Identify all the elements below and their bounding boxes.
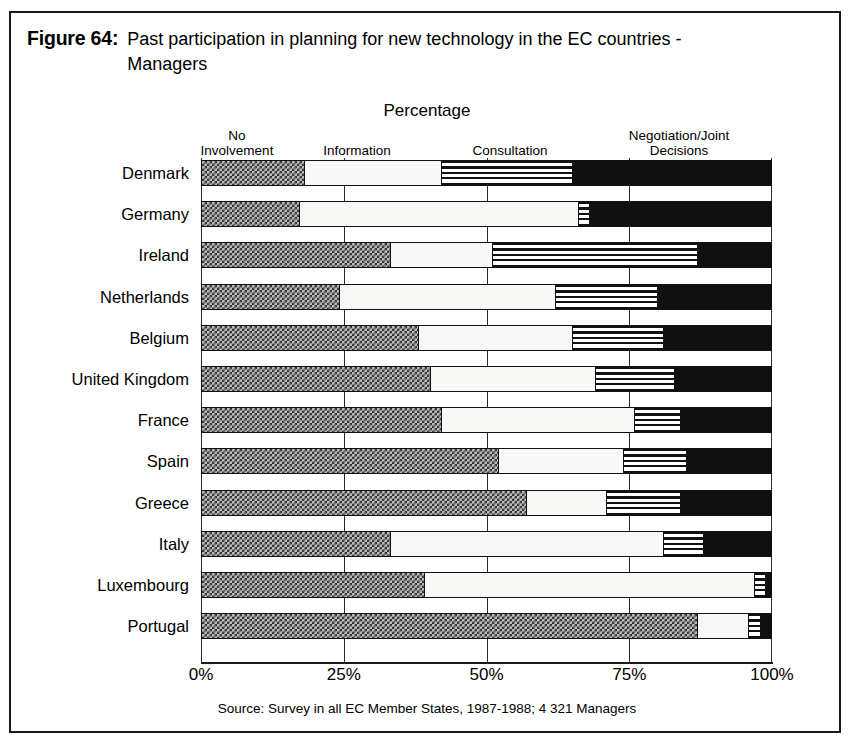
bar-segment-negotiation	[572, 161, 771, 185]
bar-segment-consultation	[441, 161, 572, 185]
y-axis-label-spain: Spain	[147, 452, 189, 471]
bar-row	[201, 201, 772, 227]
y-axis-label-italy: Italy	[159, 535, 189, 554]
x-axis-tick-labels: 0%25%50%75%100%	[11, 665, 843, 691]
bar-segment-no-involvement	[202, 573, 424, 597]
x-tick-0: 0%	[189, 665, 214, 685]
bar-segment-consultation	[606, 491, 680, 515]
source-note: Source: Survey in all EC Member States, …	[11, 701, 843, 716]
y-axis-label-denmark: Denmark	[122, 164, 189, 183]
x-tick-75: 75%	[612, 665, 646, 685]
bar-segment-no-involvement	[202, 326, 418, 350]
bar-segment-information	[498, 449, 623, 473]
bar-segment-no-involvement	[202, 285, 339, 309]
bar-segment-information	[390, 532, 663, 556]
bar-segment-consultation	[634, 408, 680, 432]
bar-segment-negotiation	[765, 573, 771, 597]
bar-row	[201, 572, 772, 598]
legend-label-line1: Information	[277, 143, 437, 158]
bar-segment-information	[418, 326, 572, 350]
bar-segment-negotiation	[703, 532, 771, 556]
y-axis-label-ireland: Ireland	[139, 246, 189, 265]
legend-label-line1: Consultation	[430, 143, 590, 158]
bar-segment-no-involvement	[202, 243, 390, 267]
bar-segment-negotiation	[697, 243, 771, 267]
x-tick-25: 25%	[327, 665, 361, 685]
bar-segment-negotiation	[680, 408, 771, 432]
bar-segment-information	[304, 161, 441, 185]
bar-segment-negotiation	[663, 326, 771, 350]
bar-row	[201, 160, 772, 186]
bar-row	[201, 448, 772, 474]
bar-segment-consultation	[555, 285, 657, 309]
bar-segment-negotiation	[760, 614, 771, 638]
bar-row	[201, 407, 772, 433]
bar-segment-consultation	[754, 573, 765, 597]
figure-number-label: Figure 64:	[27, 27, 127, 50]
bar-segment-no-involvement	[202, 202, 299, 226]
bar-segment-consultation	[663, 532, 703, 556]
x-tick-100: 100%	[750, 665, 793, 685]
y-axis-label-greece: Greece	[135, 494, 189, 513]
bar-segment-consultation	[595, 367, 675, 391]
bar-segment-no-involvement	[202, 408, 441, 432]
bar-row	[201, 490, 772, 516]
bar-row	[201, 242, 772, 268]
bar-segment-consultation	[748, 614, 759, 638]
bar-row	[201, 366, 772, 392]
x-tick-50: 50%	[469, 665, 503, 685]
bar-segment-no-involvement	[202, 491, 526, 515]
legend-item-information: Information	[277, 143, 437, 158]
y-axis-label-belgium: Belgium	[129, 329, 189, 348]
chart-title: Percentage	[11, 101, 843, 121]
bar-row	[201, 613, 772, 639]
y-axis-label-netherlands: Netherlands	[100, 288, 189, 307]
bar-segment-information	[430, 367, 595, 391]
bar-segment-information	[390, 243, 492, 267]
legend-label-line1: Negotiation/Joint	[589, 128, 769, 143]
bar-segment-information	[441, 408, 634, 432]
bar-segment-negotiation	[674, 367, 771, 391]
bar-segment-information	[424, 573, 754, 597]
bar-segment-information	[299, 202, 578, 226]
y-axis-label-luxembourg: Luxembourg	[97, 576, 189, 595]
bar-segment-negotiation	[680, 491, 771, 515]
x-axis-line	[201, 662, 773, 664]
y-axis-label-portugal: Portugal	[128, 617, 189, 636]
chart-legend: No Involvement Information Consultation …	[11, 126, 843, 162]
bar-segment-negotiation	[589, 202, 771, 226]
figure-caption: Figure 64: Past participation in plannin…	[27, 27, 817, 77]
bar-row	[201, 284, 772, 310]
bar-segment-no-involvement	[202, 532, 390, 556]
bar-segment-negotiation	[686, 449, 771, 473]
legend-label-line1: No	[177, 128, 297, 143]
y-axis-labels: DenmarkGermanyIrelandNetherlandsBelgiumU…	[11, 158, 197, 663]
y-axis-label-united-kingdom: United Kingdom	[72, 370, 189, 389]
figure-frame: Figure 64: Past participation in plannin…	[9, 11, 841, 733]
bar-segment-consultation	[492, 243, 697, 267]
legend-item-negotiation: Negotiation/Joint Decisions	[589, 128, 769, 158]
bar-row	[201, 325, 772, 351]
legend-label-line2: Decisions	[589, 143, 769, 158]
bar-segment-negotiation	[657, 285, 771, 309]
legend-item-consultation: Consultation	[430, 143, 590, 158]
bar-segment-consultation	[572, 326, 663, 350]
bar-segment-no-involvement	[202, 367, 430, 391]
bar-segment-consultation	[623, 449, 686, 473]
figure-caption-text: Past participation in planning for new t…	[127, 27, 717, 77]
bar-row	[201, 531, 772, 557]
bar-segment-consultation	[578, 202, 589, 226]
y-axis-label-france: France	[138, 411, 189, 430]
bar-segment-no-involvement	[202, 161, 304, 185]
y-axis-label-germany: Germany	[121, 205, 189, 224]
plot-area	[201, 158, 772, 663]
bar-segment-no-involvement	[202, 614, 697, 638]
bar-segment-information	[526, 491, 606, 515]
bar-segment-no-involvement	[202, 449, 498, 473]
bar-segment-information	[697, 614, 748, 638]
bar-segment-information	[339, 285, 555, 309]
